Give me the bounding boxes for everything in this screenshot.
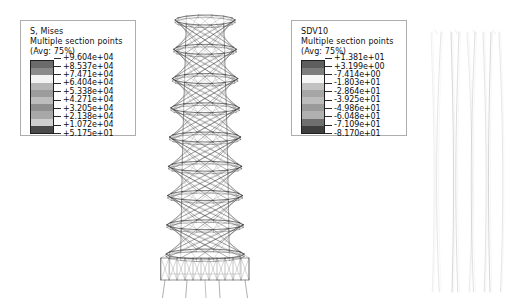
legend-tick-dash-icon bbox=[325, 108, 332, 109]
deformed-curve-twin bbox=[490, 32, 492, 292]
legend-ticklabels-s-mises: +9.604e+04+8.537e+04+7.471e+04+6.404e+04… bbox=[54, 54, 130, 138]
legend-tick-mises-9: +5.175e+01 bbox=[54, 130, 130, 138]
legend-swatch-sdv10-5 bbox=[302, 97, 324, 104]
tower-mesh-svg bbox=[140, 6, 270, 298]
legend-tick-dash-icon bbox=[325, 74, 332, 75]
legend-ticklabels-sdv10: +1.381e+01+3.199e+00-7.414e+00-1.803e+01… bbox=[325, 54, 401, 138]
deformed-curve bbox=[451, 32, 454, 292]
tower-model-viewport bbox=[140, 6, 270, 298]
deformed-node-marker bbox=[493, 30, 496, 34]
legend-tick-label: +4.271e+04 bbox=[63, 96, 113, 104]
legend-swatch-mises-0 bbox=[31, 61, 53, 68]
legend-colorbar-s-mises bbox=[30, 60, 54, 134]
legend-swatch-sdv10-0 bbox=[302, 61, 324, 68]
screenshot-canvas: S, Mises Multiple section points (Avg: 7… bbox=[0, 0, 511, 304]
legend-tick-dash-icon bbox=[54, 125, 61, 126]
legend-swatch-mises-6 bbox=[31, 104, 53, 111]
deformed-geometry bbox=[431, 30, 504, 292]
legend-tick-dash-icon bbox=[54, 58, 61, 59]
deformed-curve-twin bbox=[458, 32, 461, 292]
legend-swatch-mises-3 bbox=[31, 83, 53, 90]
legend-tick-dash-icon bbox=[54, 66, 61, 67]
tower-geometry bbox=[160, 15, 250, 298]
legend-swatch-sdv10-2 bbox=[302, 75, 324, 82]
legend-tick-dash-icon bbox=[54, 100, 61, 101]
legend-swatch-mises-7 bbox=[31, 111, 53, 118]
legend-tick-dash-icon bbox=[325, 116, 332, 117]
legend-tick-label: +1.381e+01 bbox=[334, 54, 384, 62]
legend-swatch-mises-8 bbox=[31, 119, 53, 126]
deformed-node-marker bbox=[435, 30, 438, 34]
legend-swatch-mises-9 bbox=[31, 126, 53, 133]
legend-swatch-sdv10-3 bbox=[302, 83, 324, 90]
deformed-model-viewport bbox=[415, 6, 511, 298]
legend-tick-dash-icon bbox=[325, 100, 332, 101]
legend-tick-dash-icon bbox=[54, 108, 61, 109]
legend-swatch-sdv10-4 bbox=[302, 90, 324, 97]
legend-tick-label: -3.925e+01 bbox=[334, 96, 381, 104]
legend-tick-dash-icon bbox=[54, 116, 61, 117]
legend-tick-label: +5.175e+01 bbox=[63, 130, 113, 138]
legend-subtitle-sdv10: Multiple section points bbox=[301, 37, 394, 47]
legend-swatch-mises-4 bbox=[31, 90, 53, 97]
deformed-curve-twin bbox=[501, 32, 504, 292]
deformed-node-marker bbox=[455, 30, 458, 34]
deformed-curves-svg bbox=[415, 6, 511, 298]
legend-tick-dash-icon bbox=[325, 58, 332, 59]
legend-swatch-sdv10-7 bbox=[302, 111, 324, 118]
legend-colorbar-sdv10 bbox=[301, 60, 325, 134]
legend-swatch-mises-2 bbox=[31, 75, 53, 82]
legend-panel-s-mises: S, Mises Multiple section points (Avg: 7… bbox=[20, 20, 136, 136]
legend-tick-dash-icon bbox=[54, 74, 61, 75]
legend-tick-label: -8.170e+01 bbox=[334, 130, 381, 138]
legend-tick-dash-icon bbox=[325, 133, 332, 134]
legend-swatch-mises-5 bbox=[31, 97, 53, 104]
legend-swatch-sdv10-6 bbox=[302, 104, 324, 111]
legend-title-s-mises: S, Mises bbox=[30, 27, 63, 37]
legend-tick-sdv10-9: -8.170e+01 bbox=[325, 130, 401, 138]
legend-swatch-sdv10-1 bbox=[302, 68, 324, 75]
legend-tick-dash-icon bbox=[54, 83, 61, 84]
legend-tick-dash-icon bbox=[325, 125, 332, 126]
legend-subtitle-s-mises: Multiple section points bbox=[30, 37, 123, 47]
deformed-curve bbox=[499, 32, 503, 292]
legend-tick-dash-icon bbox=[54, 91, 61, 92]
legend-swatch-mises-1 bbox=[31, 68, 53, 75]
legend-panel-sdv10: SDV10 Multiple section points (Avg: 75%)… bbox=[291, 20, 407, 136]
legend-tick-dash-icon bbox=[325, 91, 332, 92]
legend-tick-dash-icon bbox=[325, 66, 332, 67]
legend-swatch-sdv10-9 bbox=[302, 126, 324, 133]
legend-title-sdv10: SDV10 bbox=[301, 27, 328, 37]
legend-swatch-sdv10-8 bbox=[302, 119, 324, 126]
legend-tick-dash-icon bbox=[54, 133, 61, 134]
legend-tick-label: +9.604e+04 bbox=[63, 54, 113, 62]
legend-tick-dash-icon bbox=[325, 83, 332, 84]
